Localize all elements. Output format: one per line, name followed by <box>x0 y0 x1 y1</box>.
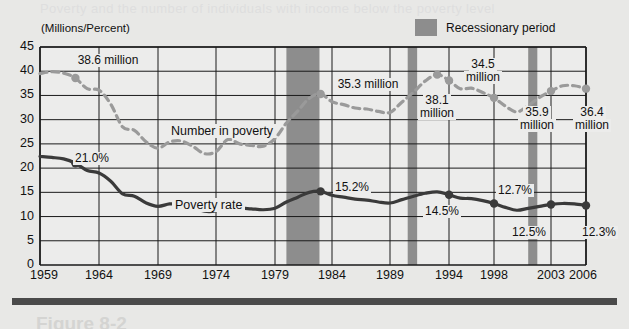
annotation-a11: 36.4million <box>566 106 618 132</box>
annotation-a7: 14.5% <box>416 205 468 218</box>
data-point-marker <box>316 90 324 98</box>
series-label-number-in-poverty: Number in poverty <box>168 124 276 138</box>
figure-root: Poverty and the number of individuals wi… <box>0 0 629 329</box>
y-tick-label: 10 <box>8 209 34 223</box>
annotation-a6: 34.5million <box>457 58 509 84</box>
annotation-line: million <box>418 107 456 120</box>
x-tick-label: 1969 <box>128 268 188 282</box>
x-tick-label: 1979 <box>245 268 305 282</box>
data-point-marker <box>490 199 498 207</box>
x-tick-label: 1964 <box>69 268 129 282</box>
annotation-a8: 12.7% <box>489 184 541 197</box>
y-tick-label: 45 <box>8 39 34 53</box>
data-point-marker <box>490 94 498 102</box>
y-tick-label: 15 <box>8 184 34 198</box>
annotation-a10: 12.5% <box>503 226 555 239</box>
y-tick-label: 40 <box>8 63 34 77</box>
y-tick-label: 25 <box>8 136 34 150</box>
annotation-line: million <box>464 71 502 84</box>
x-tick-label: 1984 <box>302 268 362 282</box>
data-point-marker <box>445 191 453 199</box>
ghost-text-bottom: Figure 8-2 <box>36 313 336 329</box>
annotation-a12: 12.3% <box>573 226 625 239</box>
annotation-line: 12.5% <box>510 226 548 239</box>
annotation-line: 35.3 million <box>336 78 401 91</box>
annotation-line: 38.6 million <box>76 54 141 67</box>
series-label-poverty-rate: Poverty rate <box>172 198 245 212</box>
data-point-marker <box>316 187 324 195</box>
data-point-marker <box>433 70 441 78</box>
annotation-line: million <box>518 119 556 132</box>
data-point-marker <box>547 200 555 208</box>
x-tick-label: 1998 <box>464 268 524 282</box>
data-point-marker <box>71 74 79 82</box>
x-tick-label: 1989 <box>360 268 420 282</box>
annotation-a3: 35.3 million <box>322 78 414 91</box>
y-tick-label: 30 <box>8 112 34 126</box>
annotation-line: 15.2% <box>333 181 371 194</box>
data-point-marker <box>582 201 590 209</box>
y-tick-label: 20 <box>8 160 34 174</box>
annotation-a9: 35.9million <box>511 106 563 132</box>
x-tick-label: 2006 <box>553 268 613 282</box>
annotation-a2: 21.0% <box>62 152 122 165</box>
recession-band-1 <box>286 47 319 265</box>
annotation-line: 12.3% <box>580 226 618 239</box>
data-point-marker <box>445 76 453 84</box>
annotation-a5: 38.1million <box>411 94 463 120</box>
annotation-line: 14.5% <box>423 205 461 218</box>
bottom-divider-rule <box>12 298 617 305</box>
annotation-line: 21.0% <box>73 152 111 165</box>
x-tick-label: 1974 <box>186 268 246 282</box>
annotation-line: million <box>573 119 611 132</box>
annotation-line: 12.7% <box>496 184 534 197</box>
y-tick-label: 35 <box>8 87 34 101</box>
annotation-a1: 38.6 million <box>62 54 154 67</box>
data-point-marker <box>547 87 555 95</box>
y-tick-label: 5 <box>8 233 34 247</box>
x-tick-label: 1959 <box>14 268 74 282</box>
data-point-marker <box>582 84 590 92</box>
annotation-a4: 15.2% <box>326 181 378 194</box>
